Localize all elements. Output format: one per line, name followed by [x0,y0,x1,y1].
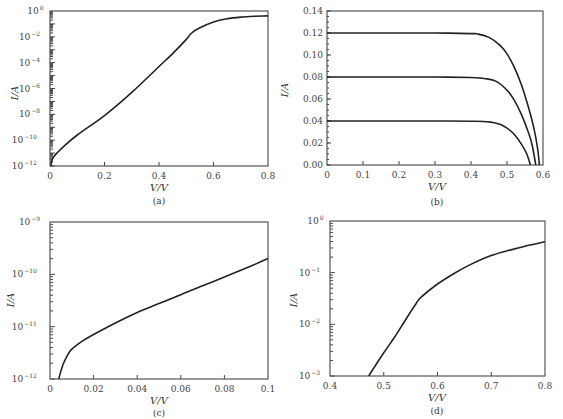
panel-c-xlabel: V/V [150,395,170,406]
panel-a-ylabel: I/A [9,86,20,102]
y-tick-label: 10−10 [12,267,37,279]
y-tick-label: 10−4 [19,56,40,68]
y-tick-label: 0.14 [303,6,323,16]
x-tick-label: 0.3 [428,170,443,180]
panel-c-caption: (c) [153,408,165,418]
panel-d-caption: (d) [431,406,444,416]
panel-d-ticks [384,372,492,376]
x-tick-label: 0.8 [538,381,553,391]
x-tick-label: 0.5 [377,381,392,391]
y-tick-label: 10−8 [19,107,40,119]
panel-b-curve-3 [327,121,530,165]
panel-c-ticks [94,375,225,379]
panel-a-minor-ticks [50,12,55,166]
panel-c: 10−910−1010−1110−12 00.020.040.060.080.1… [5,215,275,418]
panel-c-x-tick-labels: 00.020.040.060.080.1 [47,384,275,394]
panel-b-curve-1 [327,33,539,165]
y-tick-label: 100 [307,214,323,226]
y-tick-label: 10−2 [299,317,320,329]
panel-b-xlabel: V/V [428,181,448,192]
panel-b-ylabel: I/A [279,83,290,99]
figure: 10010−210−410−610−810−1010−12 00.20.40.6… [0,0,563,419]
panel-d-curve [369,242,545,376]
y-tick-label: 10−11 [12,320,37,332]
y-tick-label: 0.02 [303,138,323,148]
y-tick-label: 100 [27,4,43,16]
panel-b-curves [327,33,539,165]
x-tick-label: 0.4 [464,170,479,180]
y-tick-label: 0.08 [303,72,323,82]
y-tick-label: 10−6 [19,82,40,94]
x-tick-label: 0.2 [97,171,111,181]
y-tick-label: 0.04 [303,116,323,126]
panel-c-curve [59,259,268,379]
y-tick-label: 10−1 [299,266,320,278]
panel-a-ticks [105,162,214,166]
panel-b-frame [327,11,543,165]
x-tick-label: 0.02 [84,384,104,394]
y-tick-label: 10−12 [12,159,37,171]
x-tick-label: 0.2 [392,170,406,180]
panel-d-y-tick-labels: 10010−110−210−3 [299,214,324,381]
panel-d: 10010−110−210−3 0.40.50.60.70.8 I/A V/V … [288,214,552,416]
x-tick-label: 0.8 [261,171,276,181]
panel-b: 0.140.120.100.080.060.040.020.00 00.10.2… [279,6,550,207]
x-tick-label: 0.08 [214,384,234,394]
panel-b-y-tick-labels: 0.140.120.100.080.060.040.020.00 [303,6,323,170]
panel-a-xlabel: V/V [150,182,170,193]
y-tick-label: 10−9 [19,215,40,227]
y-tick-label: 10−2 [19,30,40,42]
panel-a-frame [50,11,268,166]
panel-d-ylabel: I/A [288,293,299,309]
x-tick-label: 0.6 [536,170,551,180]
x-tick-label: 0 [47,171,53,181]
panel-a: 10010−210−410−610−810−1010−12 00.20.40.6… [9,4,275,206]
y-tick-label: 0.10 [303,50,323,60]
x-tick-label: 0.1 [356,170,370,180]
panel-a-x-tick-labels: 00.20.40.60.8 [47,171,275,181]
panel-a-caption: (a) [153,196,165,206]
panel-a-curve [51,16,268,166]
x-tick-label: 0 [47,384,53,394]
x-tick-label: 0.4 [323,381,338,391]
y-tick-label: 10−3 [299,369,320,381]
x-tick-label: 0.04 [127,384,147,394]
panel-d-x-tick-labels: 0.40.50.60.70.8 [323,381,553,391]
x-tick-label: 0 [324,170,330,180]
y-tick-label: 0.00 [303,160,323,170]
panel-c-minor-ticks [50,224,55,379]
x-tick-label: 0.6 [430,381,445,391]
x-tick-label: 0.06 [171,384,191,394]
panel-d-xlabel: V/V [428,392,448,403]
y-tick-label: 0.12 [303,28,323,38]
x-tick-label: 0.5 [500,170,515,180]
y-tick-label: 10−10 [12,133,37,145]
panel-c-ylabel: I/A [5,293,16,309]
panel-b-x-tick-labels: 00.10.20.30.40.50.6 [324,170,550,180]
panel-d-frame [330,221,545,376]
x-tick-label: 0.4 [152,171,167,181]
y-tick-label: 10−12 [12,372,37,384]
panel-b-caption: (b) [431,197,444,207]
x-tick-label: 0.6 [206,171,221,181]
panel-d-minor-ticks [330,223,335,376]
y-tick-label: 0.06 [303,94,323,104]
x-tick-label: 0.7 [484,381,499,391]
x-tick-label: 0.1 [261,384,275,394]
panel-c-frame [50,222,268,379]
